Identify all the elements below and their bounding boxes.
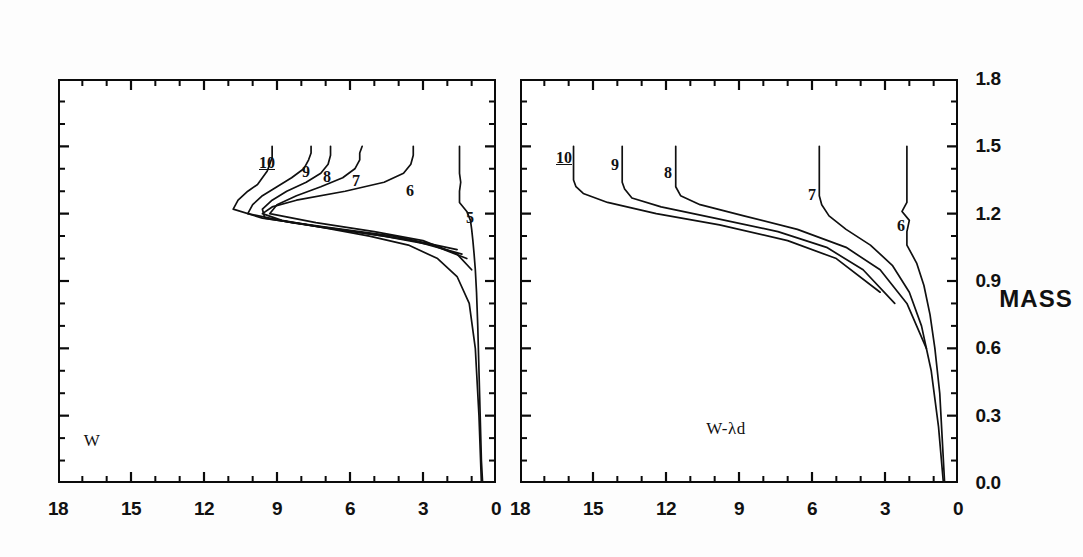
curve-label-top-9: 9 (302, 163, 310, 181)
curve-label-bot-10: 10 (556, 149, 572, 167)
x-tick-label-0.3: 0.3 (976, 405, 1001, 427)
figure-root: W W-λd 036912151803691215180.00.30.60.91… (0, 0, 1083, 557)
curve-label-top-7: 7 (352, 172, 360, 190)
y-tick-label-bottom-12: 12 (656, 498, 676, 520)
panel-w: W (58, 79, 496, 483)
panel-w-label: W (84, 431, 101, 451)
curve-label-top-10: 10 (259, 154, 275, 172)
y-tick-label-bottom-15: 15 (583, 498, 603, 520)
curve-label-bot-8: 8 (664, 164, 672, 182)
x-tick-label-1.5: 1.5 (976, 135, 1001, 157)
y-tick-label-top-12: 12 (194, 498, 214, 520)
y-tick-label-top-15: 15 (121, 498, 141, 520)
x-axis-title: MASS (999, 285, 1072, 313)
y-tick-label-top-0: 0 (491, 498, 501, 520)
x-tick-label-1.2: 1.2 (976, 203, 1001, 225)
curve-label-top-5: 5 (466, 209, 474, 227)
y-tick-label-bottom-6: 6 (807, 498, 817, 520)
x-tick-label-0.9: 0.9 (976, 270, 1001, 292)
x-tick-label-1.8: 1.8 (976, 68, 1001, 90)
y-tick-label-top-9: 9 (272, 498, 282, 520)
curve-label-bot-6: 6 (897, 217, 905, 235)
y-tick-label-top-6: 6 (345, 498, 355, 520)
rotated-figure: W W-λd 036912151803691215180.00.30.60.91… (0, 0, 1083, 557)
x-tick-label-0.6: 0.6 (976, 337, 1001, 359)
y-tick-label-bottom-0: 0 (953, 498, 963, 520)
curve-label-top-8: 8 (323, 168, 331, 186)
curve-label-top-6: 6 (406, 182, 414, 200)
y-tick-label-top-3: 3 (418, 498, 428, 520)
y-tick-label-bottom-18: 18 (510, 498, 530, 520)
y-tick-label-top-18: 18 (48, 498, 68, 520)
panel-w-lambda-d: W-λd (520, 79, 958, 483)
panel-w-plot (58, 79, 496, 483)
y-tick-label-bottom-3: 3 (880, 498, 890, 520)
curve-label-bot-7: 7 (808, 186, 816, 204)
x-tick-label-0.0: 0.0 (976, 472, 1001, 494)
curve-label-bot-9: 9 (611, 156, 619, 174)
y-tick-label-bottom-9: 9 (734, 498, 744, 520)
panel-w-lambda-d-label: W-λd (706, 419, 746, 439)
